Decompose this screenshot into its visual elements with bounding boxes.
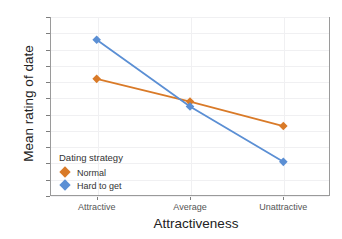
gridline-horizontal	[51, 82, 329, 83]
legend-title: Dating strategy	[59, 152, 123, 163]
legend-item-label: Normal	[77, 168, 106, 178]
legend: Dating strategy NormalHard to get	[59, 152, 123, 192]
gridline-horizontal	[51, 131, 329, 132]
legend-entries: NormalHard to get	[59, 166, 123, 192]
gridline-horizontal	[51, 196, 329, 197]
gridline-vertical	[284, 18, 285, 195]
legend-item[interactable]: Normal	[59, 166, 123, 179]
gridline-horizontal	[51, 98, 329, 99]
legend-item[interactable]: Hard to get	[59, 179, 123, 192]
gridline-horizontal	[51, 147, 329, 148]
legend-item-label: Hard to get	[77, 181, 122, 191]
y-axis-title: Mean rating of date	[21, 14, 36, 194]
legend-diamond-icon	[59, 179, 73, 192]
legend-diamond-icon	[59, 166, 73, 179]
line-chart: Mean rating of date Attractiveness 40455…	[0, 0, 342, 239]
gridline-horizontal	[51, 115, 329, 116]
x-axis-title: Attractiveness	[50, 216, 342, 231]
gridline-horizontal	[51, 50, 329, 51]
gridline-horizontal	[51, 66, 329, 67]
gridline-horizontal	[51, 17, 329, 18]
x-tick-label: Attractive	[52, 202, 142, 212]
gridline-vertical	[191, 18, 192, 195]
gridline-horizontal	[51, 33, 329, 34]
x-tick-label: Average	[145, 202, 235, 212]
x-tick-label: Unattractive	[238, 202, 328, 212]
y-tick-mark	[46, 196, 50, 197]
